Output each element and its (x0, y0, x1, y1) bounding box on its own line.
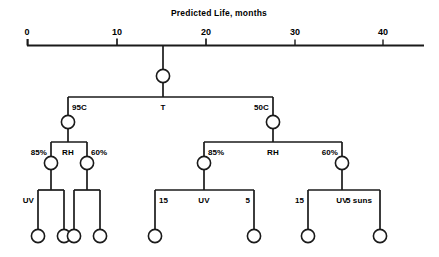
axis-title: Predicted Life, months (171, 8, 267, 18)
node-leaf-4[interactable] (93, 229, 106, 242)
axis-tick-label-0: 0 (24, 27, 29, 37)
label-level-60-right: 60% (322, 148, 338, 157)
label-factor-T: T (161, 103, 166, 112)
axis-tick-label-40: 40 (378, 27, 388, 37)
node-85-right[interactable] (197, 156, 210, 169)
node-85-left[interactable] (44, 156, 57, 169)
node-leaf-6[interactable] (247, 229, 260, 242)
label-level-85-left: 85% (31, 148, 47, 157)
node-50C[interactable] (266, 115, 279, 128)
label-factor-rh-left: RH (62, 148, 74, 157)
label-level-uv-5-middle: 5 (245, 196, 250, 205)
node-leaf-1[interactable] (31, 229, 44, 242)
axis-group: 0 10 20 30 40 Predicted Life, months (24, 8, 424, 46)
label-factor-uv-middle: UV (198, 196, 210, 205)
label-level-50C: 50C (254, 103, 269, 112)
node-root[interactable] (156, 69, 169, 82)
node-leaf-5[interactable] (148, 229, 161, 242)
node-95C[interactable] (61, 115, 74, 128)
axis-tick-label-30: 30 (290, 27, 300, 37)
label-level-uv-15-middle: 15 (159, 196, 169, 205)
axis-tick-label-20: 20 (201, 27, 211, 37)
label-level-uv-5suns-right: 5 suns (346, 196, 372, 205)
label-level-uv-15-right: 15 (295, 196, 305, 205)
node-leaf-8[interactable] (373, 229, 386, 242)
axis-tick-label-10: 10 (112, 27, 122, 37)
predicted-life-tree-figure: 0 10 20 30 40 Predicted Life, months (0, 0, 439, 257)
label-level-60-left: 60% (91, 148, 107, 157)
node-leaf-7[interactable] (301, 229, 314, 242)
node-leaf-3[interactable] (67, 229, 80, 242)
label-level-95C: 95C (72, 103, 87, 112)
label-factor-uv-left: UV (23, 196, 35, 205)
label-level-85-right: 85% (208, 148, 224, 157)
label-factor-rh-right: RH (267, 148, 279, 157)
tree-diagram: 0 10 20 30 40 Predicted Life, months (0, 0, 439, 257)
node-60-left[interactable] (80, 156, 93, 169)
node-60-right[interactable] (335, 156, 348, 169)
